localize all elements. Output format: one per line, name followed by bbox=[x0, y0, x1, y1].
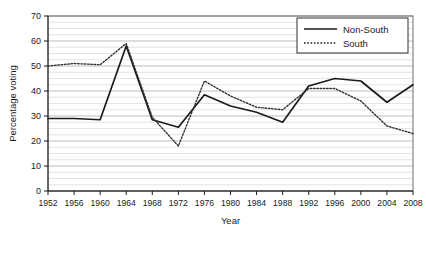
y-tick-label: 70 bbox=[31, 11, 41, 21]
x-tick-label: 1988 bbox=[273, 198, 292, 208]
x-tick-label: 1972 bbox=[169, 198, 188, 208]
x-tick-label: 2008 bbox=[403, 198, 422, 208]
chart-legend: Non-SouthSouth bbox=[297, 18, 408, 53]
x-tick-label: 1992 bbox=[299, 198, 318, 208]
y-tick-label: 50 bbox=[31, 61, 41, 71]
y-tick-label: 0 bbox=[36, 186, 41, 196]
legend-label-south: South bbox=[343, 38, 368, 49]
line-chart: 010203040506070 195219561960196419681972… bbox=[0, 0, 426, 253]
x-tick-label: 2004 bbox=[377, 198, 396, 208]
y-axis-title: Percentage voting bbox=[7, 65, 18, 142]
x-tick-label: 1984 bbox=[247, 198, 266, 208]
x-tick-label: 1964 bbox=[117, 198, 136, 208]
y-tick-label: 20 bbox=[31, 136, 41, 146]
x-axis: 1952195619601964196819721976198019841988… bbox=[38, 191, 422, 208]
x-tick-label: 2000 bbox=[351, 198, 370, 208]
legend-label-non-south: Non-South bbox=[343, 24, 388, 35]
y-tick-label: 10 bbox=[31, 161, 41, 171]
x-tick-label: 1952 bbox=[38, 198, 57, 208]
chart-figure: 010203040506070 195219561960196419681972… bbox=[0, 0, 426, 253]
y-axis: 010203040506070 bbox=[31, 11, 48, 196]
x-tick-label: 1976 bbox=[195, 198, 214, 208]
x-tick-label: 1980 bbox=[221, 198, 240, 208]
x-tick-label: 1996 bbox=[325, 198, 344, 208]
x-tick-label: 1968 bbox=[143, 198, 162, 208]
y-tick-label: 30 bbox=[31, 111, 41, 121]
y-tick-label: 40 bbox=[31, 86, 41, 96]
y-tick-label: 60 bbox=[31, 36, 41, 46]
x-axis-title: Year bbox=[221, 215, 240, 226]
x-tick-label: 1956 bbox=[65, 198, 84, 208]
x-tick-label: 1960 bbox=[91, 198, 110, 208]
